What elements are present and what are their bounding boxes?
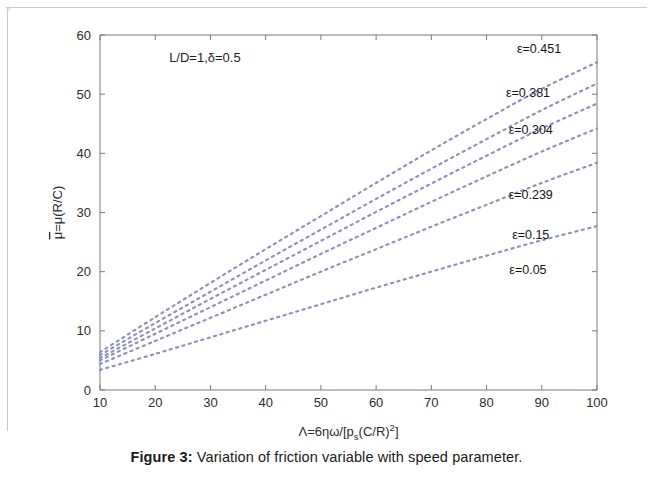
x-tick-label: 20: [148, 395, 162, 410]
y-tick-label: 30: [77, 205, 91, 220]
chart-plot: 1020304050607080901000102030405060 ε=0.4…: [0, 0, 653, 445]
y-tick-label: 60: [77, 28, 91, 43]
y-axis-title: μ=μ(R/C): [50, 186, 65, 240]
figure-container: 1020304050607080901000102030405060 ε=0.4…: [0, 0, 653, 491]
series-labels: ε=0.451ε=0.381ε=0.304ε=0.239ε=0.15ε=0.05: [506, 42, 561, 277]
x-tick-label: 80: [479, 395, 493, 410]
figure-caption: Figure 3: Variation of friction variable…: [0, 449, 653, 465]
y-tick-label: 40: [77, 146, 91, 161]
x-tick-label: 100: [586, 395, 608, 410]
series-label-5: ε=0.05: [509, 263, 546, 277]
params-annotation: L/D=1,δ=0.5: [169, 50, 241, 65]
series-label-0: ε=0.451: [517, 42, 561, 56]
svg-text:μ=μ(R/C): μ=μ(R/C): [50, 186, 65, 240]
figure-caption-text: Variation of friction variable with spee…: [193, 449, 523, 465]
series-label-4: ε=0.15: [512, 228, 549, 242]
x-tick-label: 40: [258, 395, 272, 410]
x-tick-label: 90: [535, 395, 549, 410]
series-curve-3: [100, 128, 597, 360]
figure-number: Figure 3:: [131, 449, 193, 465]
data-curves: [100, 62, 597, 370]
series-label-1: ε=0.381: [506, 86, 550, 100]
y-tick-label: 0: [84, 383, 91, 398]
x-tick-label: 10: [93, 395, 107, 410]
x-tick-label: 70: [424, 395, 438, 410]
series-curve-5: [100, 226, 597, 370]
x-tick-label: 30: [203, 395, 217, 410]
series-label-2: ε=0.304: [509, 123, 553, 137]
series-curve-0: [100, 62, 597, 352]
x-axis-title: Λ=6ηω/[ps(C/R)2]: [298, 422, 398, 442]
plot-annotations: L/D=1,δ=0.5: [169, 50, 241, 65]
x-tick-label: 60: [369, 395, 383, 410]
y-tick-label: 10: [77, 323, 91, 338]
y-tick-label: 50: [77, 87, 91, 102]
series-label-3: ε=0.239: [509, 188, 553, 202]
x-tick-label: 50: [314, 395, 328, 410]
y-tick-label: 20: [77, 264, 91, 279]
